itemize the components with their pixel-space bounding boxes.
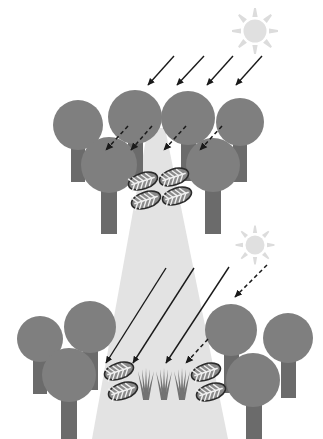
tree-u5-trunk	[101, 189, 117, 234]
seedlings-layer	[138, 368, 190, 400]
tree-l5-trunk	[281, 360, 296, 398]
forest-gap-diagram	[0, 0, 323, 439]
lower-sun	[236, 226, 275, 265]
tree-l6-trunk	[246, 404, 262, 439]
lower-sun-disc	[246, 236, 265, 255]
tree-l5-canopy	[263, 313, 313, 363]
tree-u6-trunk	[205, 189, 221, 234]
tree-u6-canopy	[186, 138, 240, 192]
tree-u2-canopy	[108, 90, 162, 144]
upper-sun-disc	[244, 20, 267, 43]
tree-l6-canopy	[226, 353, 280, 407]
tree-l4-canopy	[205, 304, 257, 356]
tree-l3-canopy	[42, 348, 96, 402]
tree-l3-trunk	[61, 399, 77, 439]
diagram-canvas	[0, 0, 323, 439]
tree-l2-canopy	[64, 301, 116, 353]
tree-u3-canopy	[161, 91, 215, 145]
upper-sun	[232, 8, 278, 54]
tree-u4-canopy	[216, 98, 264, 146]
